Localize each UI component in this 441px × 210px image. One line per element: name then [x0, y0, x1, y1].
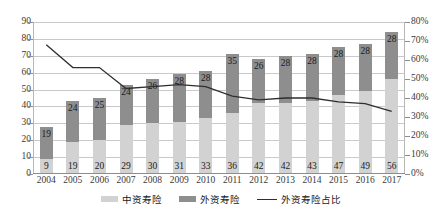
y-axis-right-tick-label: 80%	[411, 17, 441, 27]
legend-item-label: 外资寿险	[200, 192, 240, 206]
y-axis-left-tick-label: 90	[1, 17, 31, 27]
x-axis-tick-label: 2015	[329, 176, 348, 186]
x-axis-tick-label: 2016	[356, 176, 375, 186]
stacked-bar-line-chart: 0102030405060708090 0%10%20%30%40%50%60%…	[0, 0, 441, 210]
y-axis-right-tick-label: 60%	[411, 55, 441, 65]
legend-item-label: 中资寿险	[122, 192, 162, 206]
y-axis-left-tick-label: 70	[1, 51, 31, 61]
y-axis-right-tick-label: 70%	[411, 36, 441, 46]
legend-item[interactable]: 外资寿险	[179, 192, 240, 206]
y-axis-right-tickmark	[405, 60, 410, 61]
y-axis-left-tick-label: 60	[1, 68, 31, 78]
y-axis-right-tick-label: 20%	[411, 131, 441, 141]
ratio-line-series	[33, 22, 405, 174]
x-axis-tick-label: 2014	[303, 176, 322, 186]
x-axis-tick-label: 2011	[223, 176, 242, 186]
x-axis-tick-label: 2009	[170, 176, 189, 186]
x-axis-tick-label: 2005	[63, 176, 82, 186]
legend-item[interactable]: 中资寿险	[101, 192, 162, 206]
x-axis-tick-label: 2013	[276, 176, 295, 186]
x-axis-tick-label: 2010	[196, 176, 215, 186]
y-axis-right-tickmark	[405, 136, 410, 137]
x-axis-tick-label: 2004	[37, 176, 56, 186]
x-axis-tick-label: 2008	[143, 176, 162, 186]
y-axis-right-tick-label: 30%	[411, 112, 441, 122]
legend-line-swatch-icon	[257, 199, 277, 200]
legend-box-swatch-icon	[179, 196, 196, 202]
legend-box-swatch-icon	[101, 196, 118, 202]
y-axis-right-tickmark	[405, 174, 410, 175]
y-axis-left-tick-label: 50	[1, 85, 31, 95]
x-axis-tick-label: 2007	[117, 176, 136, 186]
y-axis-right-tick-label: 0%	[411, 169, 441, 179]
x-axis-tick-label: 2017	[382, 176, 401, 186]
x-axis-tick-label: 2012	[249, 176, 268, 186]
legend-item-label: 外资寿险占比	[281, 192, 341, 206]
ratio-line-path	[46, 45, 391, 112]
legend-item[interactable]: 外资寿险占比	[257, 192, 341, 206]
y-axis-left-tickmark	[28, 174, 33, 175]
y-axis-right-tick-label: 10%	[411, 150, 441, 160]
x-axis-tick-label: 2006	[90, 176, 109, 186]
y-axis-left-tick-label: 10	[1, 152, 31, 162]
y-axis-left-tick-label: 40	[1, 102, 31, 112]
chart-legend: 中资寿险外资寿险外资寿险占比	[0, 192, 441, 206]
y-axis-right-tick-label: 50%	[411, 74, 441, 84]
y-axis-right-tickmark	[405, 117, 410, 118]
y-axis-right-tickmark	[405, 155, 410, 156]
y-axis-right-tickmark	[405, 41, 410, 42]
y-axis-right-tickmark	[405, 22, 410, 23]
y-axis-right-tickmark	[405, 98, 410, 99]
y-axis-right-tickmark	[405, 79, 410, 80]
y-axis-left-tick-label: 20	[1, 135, 31, 145]
y-axis-left-tick-label: 80	[1, 34, 31, 44]
y-axis-left-tick-label: 30	[1, 119, 31, 129]
y-axis-left-tick-label: 0	[1, 169, 31, 179]
y-axis-right-tick-label: 40%	[411, 93, 441, 103]
